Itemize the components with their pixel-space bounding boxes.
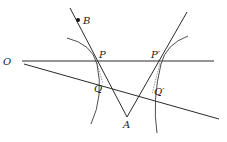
label-B: B [82,15,90,26]
geometry-diagram: O B P P′ Q Q′ A [0,0,227,142]
oblique-line-OQQ [24,64,219,119]
point-B [76,18,80,22]
label-Q: Q [94,83,102,94]
label-O: O [3,56,11,67]
right-curve [155,36,188,133]
label-Q-prime: Q′ [154,86,165,97]
label-P-prime: P′ [150,49,161,60]
label-A: A [122,119,130,130]
label-P: P [98,49,106,60]
